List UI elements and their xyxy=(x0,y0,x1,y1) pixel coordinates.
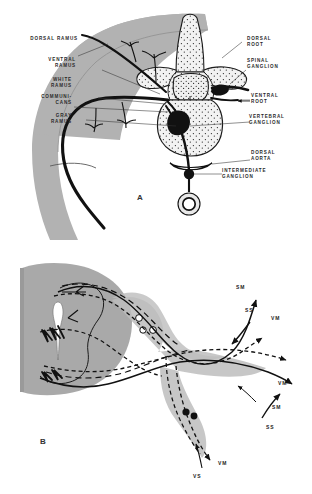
label-gray-ramus: GRAY RAMUS xyxy=(2,113,72,125)
root-bundle-tissue xyxy=(112,297,266,458)
label-ventral-ramus: VENTRAL RAMUS xyxy=(2,57,76,69)
panel-letter-a: A xyxy=(137,193,143,202)
dorsal-aorta xyxy=(170,163,212,170)
ventral-root-nerve xyxy=(211,98,238,100)
label-dorsal-ramus: DORSAL RAMUS xyxy=(2,36,78,42)
label-ventral-root: VENTRAL ROOT xyxy=(251,93,311,105)
fibre-ss-pointer xyxy=(238,386,256,402)
label-intermediate-ganglion: INTERMEDIATE GANGLION xyxy=(222,168,312,180)
label-ss-upper: SS xyxy=(245,307,254,313)
panel-b xyxy=(20,263,292,468)
label-spinal-ganglion: SPINAL GANGLION xyxy=(247,58,311,70)
label-sm-upper: SM xyxy=(236,284,246,290)
cord-midline-edge xyxy=(20,268,24,392)
spinal-cord xyxy=(173,74,208,101)
panel-letter-b: B xyxy=(40,437,46,446)
label-vs-lower: VS xyxy=(193,473,202,479)
label-ss-mid: SS xyxy=(266,424,275,430)
label-vertebral-ganglion: VERTEBRAL GANGLION xyxy=(249,114,311,126)
label-vm-mid: VM xyxy=(278,380,288,386)
intermediate-ganglion xyxy=(184,169,194,179)
sympathetic-cell-2 xyxy=(191,413,198,420)
anatomy-figure xyxy=(0,0,312,494)
label-communicans: COMMUNI- CANS xyxy=(2,94,72,106)
panel-a xyxy=(32,14,250,240)
label-dorsal-aorta: DORSAL AORTA xyxy=(251,150,311,162)
label-vm-lower: VM xyxy=(218,460,228,466)
label-dorsal-root: DORSAL ROOT xyxy=(247,36,311,48)
label-sm-mid: SM xyxy=(272,404,282,410)
label-white-ramus: WHITE RAMUS xyxy=(2,77,72,89)
label-vm-upper: VM xyxy=(271,315,281,321)
vessel-lumen xyxy=(183,198,195,210)
